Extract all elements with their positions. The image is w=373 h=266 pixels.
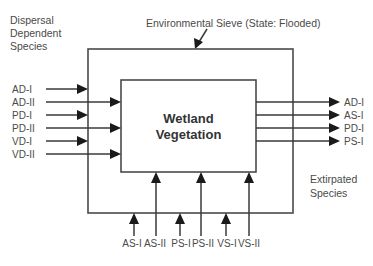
- bottom-input-label: VS-II: [238, 238, 260, 249]
- left-input-label: AD-II: [12, 97, 35, 108]
- bottom-input-label: AS-II: [144, 238, 166, 249]
- wetland-vegetation-box: [121, 80, 256, 172]
- footer-right-line1: Extirpated: [310, 173, 357, 185]
- sieve-pointer-line: [199, 29, 207, 42]
- left-input-arrowhead: [110, 123, 121, 133]
- right-output-label: PS-I: [344, 136, 363, 147]
- center-title-line1: Wetland: [163, 111, 213, 126]
- bottom-input-arrowhead: [244, 172, 254, 183]
- sieve-pointer-arrowhead: [194, 38, 203, 49]
- right-output-label: AS-I: [344, 110, 363, 121]
- bottom-input-label: VS-I: [217, 238, 236, 249]
- left-input-arrowhead: [77, 84, 88, 94]
- header-left-line1: Dispersal: [10, 14, 54, 26]
- footer-right-line2: Species: [310, 187, 347, 199]
- center-title-line2: Vegetation: [156, 127, 222, 142]
- bottom-input-arrowhead: [196, 172, 206, 183]
- left-input-label: PD-I: [12, 110, 32, 121]
- left-input-label: AD-I: [12, 84, 32, 95]
- bottom-input-arrowhead: [175, 213, 185, 224]
- sieve-diagram: Dispersal Dependent Species Environmenta…: [0, 0, 373, 266]
- bottom-input-arrows: AS-IAS-IIPS-IPS-IIVS-IVS-II: [122, 172, 260, 249]
- header-left-line3: Species: [10, 40, 47, 52]
- right-output-arrowhead: [329, 123, 340, 133]
- left-input-label: VD-I: [12, 136, 32, 147]
- right-output-label: AD-I: [344, 97, 364, 108]
- right-output-label: PD-I: [344, 123, 364, 134]
- left-input-arrowhead: [77, 136, 88, 146]
- bottom-input-label: PS-II: [192, 238, 214, 249]
- bottom-input-arrowhead: [151, 172, 161, 183]
- bottom-input-arrowhead: [129, 213, 139, 224]
- right-output-arrowhead: [329, 136, 340, 146]
- left-input-arrowhead: [110, 149, 121, 159]
- left-input-label: VD-II: [12, 149, 35, 160]
- right-output-arrowhead: [329, 110, 340, 120]
- sieve-label: Environmental Sieve (State: Flooded): [146, 17, 321, 29]
- left-input-arrows: AD-IAD-IIPD-IPD-IIVD-IVD-II: [12, 84, 121, 160]
- bottom-input-label: AS-I: [122, 238, 141, 249]
- header-left-line2: Dependent: [10, 27, 61, 39]
- left-input-arrowhead: [110, 97, 121, 107]
- right-output-arrowhead: [329, 97, 340, 107]
- bottom-input-label: PS-I: [171, 238, 190, 249]
- left-input-arrowhead: [77, 110, 88, 120]
- left-input-label: PD-II: [12, 123, 35, 134]
- bottom-input-arrowhead: [221, 213, 231, 224]
- right-output-arrows: AD-IAS-IPD-IPS-I: [256, 97, 364, 147]
